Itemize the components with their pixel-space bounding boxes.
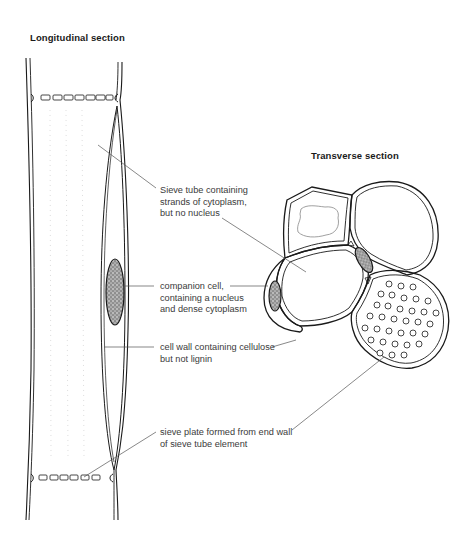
cytoplasm-strands bbox=[50, 110, 84, 460]
leader-cell-wall-trans bbox=[272, 340, 296, 347]
companion-cell-nucleus-left bbox=[269, 281, 281, 311]
label-cell-wall: cell wall containing cellulose but not l… bbox=[160, 342, 275, 365]
leader-sieve-tube-long bbox=[98, 145, 156, 188]
parenchyma-cell-inner bbox=[288, 191, 348, 253]
label-companion-cell: companion cell, containing a nucleus and… bbox=[160, 281, 247, 316]
parenchyma-cytoplasm bbox=[298, 206, 339, 237]
sieve-tube-cell-center-inner bbox=[282, 250, 363, 321]
companion-cell-nucleus-long bbox=[106, 259, 124, 325]
label-sieve-plate: sieve plate formed from end wall of siev… bbox=[160, 427, 292, 450]
leader-sieve-tube-trans bbox=[222, 218, 306, 272]
parenchyma-cell-outer bbox=[284, 187, 352, 258]
heading-transverse: Transverse section bbox=[311, 150, 399, 161]
transverse-section bbox=[264, 182, 449, 369]
left-cell-wall-inner bbox=[29, 58, 34, 520]
sieve-plate-top bbox=[31, 94, 118, 102]
leader-sieve-plate-long bbox=[84, 432, 156, 477]
phloem-diagram bbox=[0, 0, 464, 548]
sieve-tube-cell-center-outer bbox=[276, 245, 368, 326]
sieve-plate-bottom bbox=[31, 474, 113, 482]
left-cell-wall bbox=[26, 58, 31, 520]
label-sieve-tube: Sieve tube containing strands of cytopla… bbox=[160, 185, 248, 220]
leader-sieve-plate-trans bbox=[292, 357, 384, 430]
longitudinal-section bbox=[26, 58, 129, 520]
sieve-pores bbox=[362, 281, 439, 358]
heading-longitudinal: Longitudinal section bbox=[30, 32, 125, 43]
